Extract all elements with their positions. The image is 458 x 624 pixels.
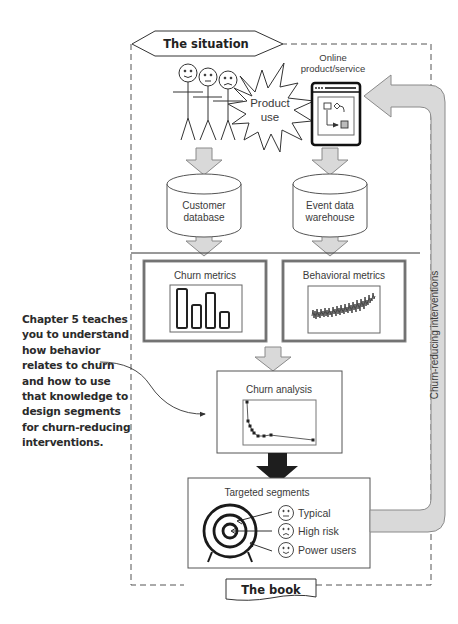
event-warehouse-label-1: Event data <box>306 200 354 211</box>
online-product-label-1: Online <box>319 52 346 63</box>
annotation-line: for churn-reducing <box>22 420 140 435</box>
book-title: The book <box>241 583 301 597</box>
behavioral-metrics-panel: Behavioral metrics <box>283 261 405 341</box>
behavioral-metrics-title: Behavioral metrics <box>303 270 385 281</box>
product-use-line-1: Product <box>250 97 290 109</box>
product-use-line-2: use <box>261 111 280 123</box>
situation-banner: The situation <box>132 31 283 56</box>
chapter-annotation: Chapter 5 teaches you to understand how … <box>22 312 140 451</box>
annotation-line: you to understand <box>22 327 140 342</box>
churn-analysis-title: Churn analysis <box>246 384 312 395</box>
book-banner: The book <box>226 579 316 600</box>
annotation-line: and how to use <box>22 374 140 389</box>
customer-database-label-2: database <box>183 212 225 223</box>
event-warehouse-label-2: warehouse <box>305 212 355 223</box>
segment-power-users-label: Power users <box>298 544 356 556</box>
segment-typical-label: Typical <box>298 507 331 519</box>
online-product-label-2: product/service <box>301 63 365 74</box>
annotation-line: relates to churn <box>22 358 140 373</box>
churn-metrics-panel: Churn metrics <box>144 261 266 341</box>
annotation-line: design segments <box>22 404 140 419</box>
customers-stick-figures <box>173 64 243 140</box>
segment-high-risk-label: High risk <box>298 525 340 537</box>
targeted-segments-title: Targeted segments <box>224 487 309 498</box>
product-use-burst: Product use <box>228 63 314 152</box>
churn-reducing-interventions-label: Churn-reducing interventions <box>429 271 440 399</box>
churn-analysis-panel: Churn analysis <box>217 371 342 453</box>
annotation-line: that knowledge to <box>22 389 140 404</box>
customer-database-label-1: Customer <box>182 200 226 211</box>
event-warehouse-cylinder: Event data warehouse <box>293 174 367 237</box>
situation-title: The situation <box>163 37 249 51</box>
online-product-window-icon <box>312 83 360 145</box>
targeted-segments-panel: Targeted segments <box>188 478 370 568</box>
annotation-line: interventions. <box>22 435 140 450</box>
annotation-line: Chapter 5 teaches <box>22 312 140 327</box>
annotation-line: how behavior <box>22 343 140 358</box>
customer-database-cylinder: Customer database <box>167 174 241 237</box>
churn-metrics-title: Churn metrics <box>174 270 236 281</box>
